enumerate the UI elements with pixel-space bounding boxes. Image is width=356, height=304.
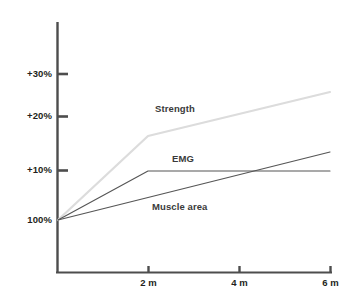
series-label-strength: Strength: [155, 104, 195, 114]
y-axis-label-10: +10%: [14, 165, 52, 175]
x-axis-label-6m: 6 m: [310, 278, 351, 288]
x-axis-label-2m: 2 m: [128, 278, 169, 288]
series-label-emg: EMG: [172, 154, 194, 164]
series-line-emg: [58, 171, 330, 220]
series-label-muscle-area: Muscle area: [152, 202, 208, 212]
y-axis-label-30: +30%: [14, 69, 52, 79]
x-axis-label-4m: 4 m: [219, 278, 260, 288]
chart-plot-area: [0, 0, 356, 304]
chart-container: +30% +20% +10% 100% 2 m 4 m 6 m Strength…: [0, 0, 356, 304]
y-axis-label-100: 100%: [11, 215, 52, 225]
y-axis-label-20: +20%: [14, 111, 52, 121]
